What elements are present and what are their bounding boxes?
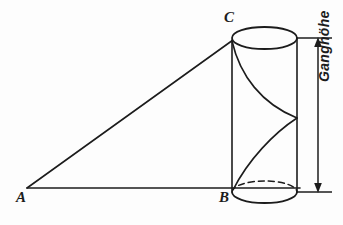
- vertex-label-c: C: [224, 10, 234, 25]
- ganghoehe-diagram: A B C Ganghöhe: [0, 0, 343, 225]
- helix-lower-segment: [233, 118, 297, 190]
- triangle-group: [27, 40, 300, 191]
- dimension-label-ganghoehe: Ganghöhe: [316, 0, 332, 82]
- cylinder-top-ellipse: [232, 27, 297, 49]
- triangle-side-ac: [27, 40, 233, 188]
- cylinder-bottom-back-arc: [232, 181, 297, 192]
- cylinder-bottom-front-arc: [232, 192, 297, 203]
- diagram-canvas: [0, 0, 343, 225]
- vertex-label-b: B: [219, 190, 229, 205]
- cylinder-group: [232, 27, 297, 203]
- vertex-label-a: A: [16, 190, 26, 205]
- helix-upper-segment: [232, 41, 297, 118]
